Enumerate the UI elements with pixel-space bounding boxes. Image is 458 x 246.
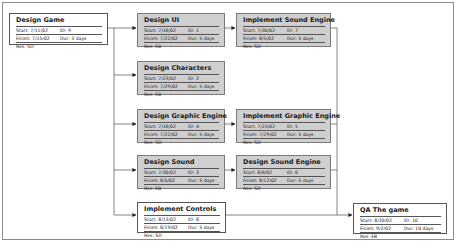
task-duration: Dur: 3 days [60, 35, 87, 42]
task-resource: Res: SD [243, 43, 287, 50]
task-finish: Finish: 8/19/02 [144, 224, 188, 231]
task-id: ID: 4 [188, 123, 199, 130]
task-node-design-graphic-engine[interactable]: Design Graphic Engine Start: 7/16/02ID: … [137, 109, 225, 143]
task-node-implement-sound-engine[interactable]: Implement Sound Engine Start: 7/30/02ID:… [236, 13, 331, 47]
task-title: Implement Graphic Engine [243, 112, 325, 123]
task-finish: Finish: 7/22/02 [144, 35, 188, 42]
task-resource: Res: EB [144, 185, 188, 192]
task-start: Start: 7/16/02 [144, 123, 188, 130]
task-node-design-characters[interactable]: Design Characters Start: 7/23/02ID: 2 Fi… [137, 61, 225, 95]
task-title: Design UI [144, 16, 219, 27]
task-finish: Finish: 7/29/02 [243, 131, 287, 138]
task-finish: Finish: 9/2/02 [360, 225, 404, 232]
task-resource: Res: SD [243, 139, 287, 146]
task-resource: Res: EB [144, 43, 188, 50]
task-resource: Res: SD [243, 185, 287, 192]
task-finish: Finish: 8/5/02 [144, 177, 188, 184]
task-title: Implement Sound Engine [243, 16, 325, 27]
task-title: Design Game [16, 16, 102, 27]
task-finish: Finish: 8/12/02 [243, 177, 287, 184]
task-node-qa-the-game[interactable]: QA The game Start: 8/20/02ID: 10 Finish:… [353, 203, 447, 234]
task-duration: Dur: 5 days [188, 83, 215, 90]
task-id: ID: 2 [188, 75, 199, 82]
task-id: ID: 3 [188, 169, 199, 176]
task-finish: Finish: 7/22/02 [144, 131, 188, 138]
task-finish: Finish: 7/15/02 [16, 35, 60, 42]
task-start: Start: 7/23/02 [243, 123, 287, 130]
task-duration: Dur: 5 days [188, 35, 215, 42]
task-start: Start: 8/20/02 [360, 217, 404, 224]
task-node-design-sound[interactable]: Design Sound Start: 7/30/02ID: 3 Finish:… [137, 155, 225, 189]
task-node-design-game[interactable]: Design Game Start: 7/11/02ID: 9 Finish: … [9, 13, 108, 45]
task-duration: Dur: 5 days [287, 131, 314, 138]
task-resource: Res: EB [360, 233, 404, 240]
task-start: Start: 7/30/02 [144, 169, 188, 176]
task-title: Design Sound [144, 158, 219, 169]
task-node-implement-controls[interactable]: Implement Controls Start: 8/13/02ID: 8 F… [137, 202, 226, 233]
task-start: Start: 7/23/02 [144, 75, 188, 82]
task-start: Start: 7/30/02 [243, 27, 287, 34]
task-title: Implement Controls [144, 205, 220, 216]
task-id: ID: 7 [287, 27, 298, 34]
task-finish: Finish: 7/29/02 [144, 83, 188, 90]
task-start: Start: 8/13/02 [144, 216, 188, 223]
task-finish: Finish: 8/5/02 [243, 35, 287, 42]
task-start: Start: 7/16/02 [144, 27, 188, 34]
task-id: ID: 5 [287, 123, 298, 130]
task-resource: Res: SD [144, 139, 188, 146]
task-title: Design Graphic Engine [144, 112, 219, 123]
task-title: QA The game [360, 206, 441, 217]
task-node-design-sound-engine[interactable]: Design Sound Engine Start: 8/6/02ID: 6 F… [236, 155, 331, 189]
task-id: ID: 1 [188, 27, 199, 34]
task-duration: Dur: 5 days [188, 224, 215, 231]
task-id: ID: 10 [404, 217, 418, 224]
task-duration: Dur: 5 days [287, 35, 314, 42]
task-resource: Res: EB [144, 91, 188, 98]
task-id: ID: 9 [60, 27, 71, 34]
task-id: ID: 6 [287, 169, 298, 176]
task-node-design-ui[interactable]: Design UI Start: 7/16/02ID: 1 Finish: 7/… [137, 13, 225, 47]
task-id: ID: 8 [188, 216, 199, 223]
task-title: Design Sound Engine [243, 158, 325, 169]
task-duration: Dur: 5 days [287, 177, 314, 184]
task-title: Design Characters [144, 64, 219, 75]
task-node-implement-graphic-engine[interactable]: Implement Graphic Engine Start: 7/23/02I… [236, 109, 331, 143]
task-resource: Res: SD [144, 232, 188, 239]
task-duration: Dur: 10 days [404, 225, 433, 232]
task-start: Start: 8/6/02 [243, 169, 287, 176]
task-resource: Res: SD [16, 43, 60, 50]
task-duration: Dur: 5 days [188, 131, 215, 138]
task-start: Start: 7/11/02 [16, 27, 60, 34]
task-duration: Dur: 5 days [188, 177, 215, 184]
